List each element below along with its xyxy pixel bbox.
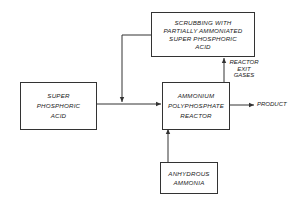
product-label: PRODUCT [257, 101, 287, 108]
reactor-box: AMMONIUM POLYPHOSPHATE REACTOR [162, 82, 230, 130]
anhydrous-ammonia-box: ANHYDROUS AMMONIA [160, 162, 218, 194]
process-flow-diagram: SCRUBBING WITH PARTIALLY AMMONIATED SUPE… [0, 0, 305, 207]
scrubbing-label: SCRUBBING WITH PARTIALLY AMMONIATED SUPE… [163, 19, 242, 51]
super-phosphoric-acid-box: SUPER PHOSPHORIC ACID [20, 82, 97, 130]
scrubbing-box: SCRUBBING WITH PARTIALLY AMMONIATED SUPE… [151, 12, 255, 57]
reactor-label: AMMONIUM POLYPHOSPHATE REACTOR [168, 91, 224, 121]
reactor-exit-gases-label: REACTOR EXIT GASES [226, 59, 262, 79]
super-phosphoric-acid-label: SUPER PHOSPHORIC ACID [37, 91, 81, 121]
anhydrous-ammonia-label: ANHYDROUS AMMONIA [168, 169, 209, 187]
